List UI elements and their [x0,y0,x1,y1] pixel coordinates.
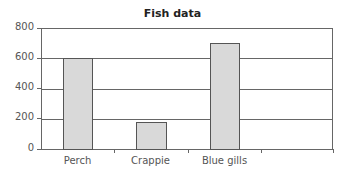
y-tick [37,58,41,59]
chart-title: Fish data [0,7,345,20]
y-axis [41,28,42,150]
y-tick-label: 800 [0,21,34,32]
y-tick [37,28,41,29]
y-tick-label: 200 [0,111,34,122]
y-tick-label: 600 [0,51,34,62]
x-label-crappie: Crappie [114,155,187,166]
y-tick [37,88,41,89]
x-tick [114,149,115,153]
bar-crappie [136,122,167,150]
x-tick [333,149,334,153]
y-tick-label: 0 [0,142,34,153]
y-tick-label: 400 [0,81,34,92]
x-label-blue-gills: Blue gills [188,155,261,166]
y-tick [37,149,41,150]
y-tick [37,118,41,119]
x-tick [261,149,262,153]
bar-blue-gills [210,43,240,150]
bar-perch [63,58,93,150]
x-label-perch: Perch [41,155,114,166]
x-tick [188,149,189,153]
